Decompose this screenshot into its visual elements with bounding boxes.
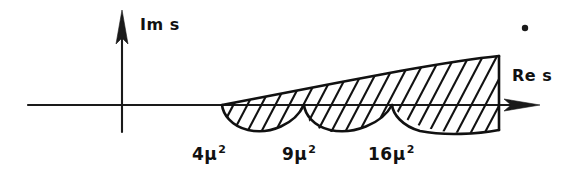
- branch-point-label-1: 4μ2: [192, 146, 227, 163]
- branch-point-label-2: 9μ2: [282, 146, 317, 163]
- complex-plane-diagram: Im s Re s 4μ2 9μ2 16μ2: [0, 0, 583, 178]
- branch-point-3-exponent: 2: [406, 143, 415, 156]
- real-axis-label: Re s: [512, 68, 552, 84]
- branch-point-3-symbol: μ: [393, 144, 406, 164]
- region-upper-boundary: [222, 56, 499, 105]
- branch-point-3-number: 16: [368, 144, 393, 164]
- branch-point-2-number: 9: [282, 144, 294, 164]
- branch-point-2-exponent: 2: [307, 143, 316, 156]
- branch-point-1-number: 4: [192, 144, 204, 164]
- ink-speck: [522, 25, 528, 31]
- branch-point-2-symbol: μ: [294, 144, 307, 164]
- branch-point-1-exponent: 2: [217, 143, 226, 156]
- branch-point-label-3: 16μ2: [368, 146, 415, 163]
- branch-point-1-symbol: μ: [204, 144, 217, 164]
- imaginary-axis-label: Im s: [140, 17, 180, 33]
